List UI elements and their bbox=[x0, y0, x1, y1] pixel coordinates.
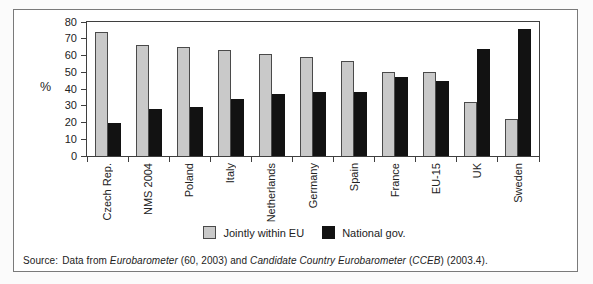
source-prefix: Source: bbox=[23, 255, 58, 266]
x-tick bbox=[497, 157, 498, 162]
bar-jointly-eu-eu-15 bbox=[423, 72, 436, 156]
bar-jointly-eu-germany bbox=[300, 57, 313, 156]
x-tick bbox=[333, 157, 334, 162]
source-text-2: (60, 2003) and bbox=[178, 255, 250, 266]
bar-jointly-eu-spain bbox=[341, 61, 354, 156]
x-category-poland: Poland bbox=[183, 163, 197, 197]
x-tick bbox=[87, 157, 88, 162]
x-category-france: France bbox=[389, 163, 403, 197]
bar-national-gov-czech-rep bbox=[108, 123, 121, 157]
x-category-eu-15: EU-15 bbox=[430, 163, 444, 194]
bar-jointly-eu-sweden bbox=[505, 119, 518, 156]
x-category-label: Netherlands bbox=[265, 163, 278, 222]
x-tick bbox=[169, 157, 170, 162]
legend-swatch-national-gov bbox=[322, 226, 335, 239]
source-italic-2: Candidate Country Eurobarometer bbox=[250, 255, 406, 266]
x-category-label: Czech Rep. bbox=[101, 163, 114, 220]
x-tick bbox=[415, 157, 416, 162]
bar-jointly-eu-netherlands bbox=[259, 54, 272, 156]
y-tick-label: 80 bbox=[41, 16, 77, 29]
bar-jointly-eu-nms-2004 bbox=[136, 45, 149, 156]
y-tick-label: 60 bbox=[41, 49, 77, 62]
bar-jointly-eu-italy bbox=[218, 50, 231, 156]
x-category-label: NMS 2004 bbox=[142, 163, 155, 215]
x-category-italy: Italy bbox=[224, 163, 238, 183]
bar-national-gov-france bbox=[395, 77, 408, 156]
x-category-germany: Germany bbox=[307, 163, 321, 208]
x-tick bbox=[128, 157, 129, 162]
bar-jointly-eu-france bbox=[382, 72, 395, 156]
bar-national-gov-sweden bbox=[518, 29, 531, 156]
y-tick bbox=[81, 139, 86, 140]
bar-national-gov-spain bbox=[354, 92, 367, 156]
x-category-label: EU-15 bbox=[430, 163, 443, 194]
y-tick bbox=[81, 122, 86, 123]
y-tick bbox=[81, 22, 86, 23]
figure-scan: { "chart_data": { "type": "bar", "catego… bbox=[0, 0, 593, 284]
x-tick bbox=[456, 157, 457, 162]
y-tick bbox=[81, 156, 86, 157]
x-category-label: Spain bbox=[348, 163, 361, 191]
x-tick bbox=[292, 157, 293, 162]
y-tick-label: 40 bbox=[41, 83, 77, 96]
plot-area: % 01020304050607080Czech Rep.NMS 2004Pol… bbox=[86, 21, 540, 157]
y-tick-label: 20 bbox=[41, 116, 77, 129]
y-tick bbox=[81, 55, 86, 56]
figure-frame: % 01020304050607080Czech Rep.NMS 2004Pol… bbox=[13, 9, 578, 272]
y-tick-label: 10 bbox=[41, 133, 77, 146]
x-category-spain: Spain bbox=[348, 163, 362, 191]
x-category-uk: UK bbox=[471, 163, 485, 178]
x-category-label: UK bbox=[471, 163, 484, 178]
x-category-label: Germany bbox=[307, 163, 320, 208]
y-tick bbox=[81, 89, 86, 90]
legend-label-jointly-eu: Jointly within EU bbox=[223, 227, 304, 239]
bar-jointly-eu-czech-rep bbox=[95, 32, 108, 156]
x-tick bbox=[374, 157, 375, 162]
x-category-label: Italy bbox=[224, 163, 237, 183]
bar-national-gov-netherlands bbox=[272, 94, 285, 156]
bar-national-gov-uk bbox=[477, 49, 490, 156]
bar-national-gov-eu-15 bbox=[436, 81, 449, 156]
y-tick bbox=[81, 38, 86, 39]
source-text-4: ) (2003.4). bbox=[441, 255, 488, 266]
bar-national-gov-italy bbox=[231, 99, 244, 156]
source-italic-3: CCEB bbox=[412, 255, 440, 266]
y-tick-label: 50 bbox=[41, 66, 77, 79]
bar-national-gov-poland bbox=[190, 107, 203, 156]
bar-jointly-eu-poland bbox=[177, 47, 190, 156]
bar-national-gov-nms-2004 bbox=[149, 109, 162, 156]
x-category-label: France bbox=[389, 163, 402, 197]
x-tick bbox=[539, 157, 540, 162]
y-tick bbox=[81, 72, 86, 73]
x-category-sweden: Sweden bbox=[512, 163, 526, 203]
source-italic-1: Eurobarometer bbox=[110, 255, 178, 266]
y-tick bbox=[81, 105, 86, 106]
x-category-nms-2004: NMS 2004 bbox=[142, 163, 156, 215]
source-text-1: Data from bbox=[62, 255, 110, 266]
y-tick-label: 70 bbox=[41, 32, 77, 45]
y-tick-label: 30 bbox=[41, 99, 77, 112]
y-tick-label: 0 bbox=[41, 150, 77, 163]
x-category-label: Sweden bbox=[512, 163, 525, 203]
bar-national-gov-germany bbox=[313, 92, 326, 156]
x-tick bbox=[210, 157, 211, 162]
x-category-czech-rep: Czech Rep. bbox=[101, 163, 115, 220]
legend-label-national-gov: National gov. bbox=[342, 227, 405, 239]
legend-swatch-jointly-eu bbox=[203, 226, 216, 239]
x-tick bbox=[251, 157, 252, 162]
x-category-label: Poland bbox=[183, 163, 196, 197]
x-category-netherlands: Netherlands bbox=[265, 163, 279, 222]
source-note: Source:Data from Eurobarometer (60, 2003… bbox=[23, 255, 488, 266]
bar-jointly-eu-uk bbox=[464, 102, 477, 156]
legend: Jointly within EU National gov. bbox=[23, 226, 586, 239]
